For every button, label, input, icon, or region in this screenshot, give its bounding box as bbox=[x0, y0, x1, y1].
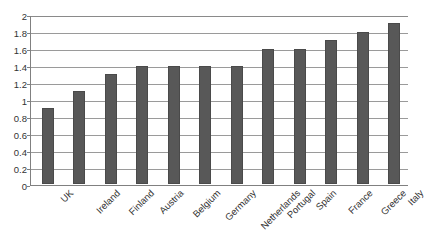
plot-frame bbox=[30, 16, 408, 186]
x-axis-tick-label: France bbox=[347, 188, 375, 216]
y-axis-tick-label: 1.8 bbox=[0, 29, 27, 38]
y-axis-tick-label: 0.4 bbox=[0, 148, 27, 157]
bar bbox=[357, 32, 369, 184]
x-axis-tick-label: Austria bbox=[158, 188, 186, 216]
x-axis-tick-label: Belgium bbox=[191, 188, 222, 219]
y-axis-tick-label: 1.4 bbox=[0, 63, 27, 72]
y-axis-tick-label: 0.2 bbox=[0, 165, 27, 174]
y-axis: 00.20.40.60.811.21.41.61.82 bbox=[0, 16, 30, 186]
y-axis-tick-label: 0.8 bbox=[0, 114, 27, 123]
bar bbox=[168, 66, 180, 184]
plot-area bbox=[30, 16, 408, 186]
x-axis-labels: UKIrelandFinlandAustriaBelgiumGermanyNet… bbox=[30, 188, 408, 246]
x-axis-tick-label: Greece bbox=[379, 188, 408, 217]
bar bbox=[231, 66, 243, 184]
bar bbox=[73, 91, 85, 184]
bar bbox=[262, 49, 274, 184]
bar bbox=[105, 74, 117, 184]
bars-group bbox=[32, 16, 408, 184]
y-axis-tick-label: 2 bbox=[0, 12, 27, 21]
y-axis-tick-label: 0 bbox=[0, 182, 27, 191]
bar bbox=[325, 40, 337, 184]
x-axis-tick-label: Germany bbox=[224, 188, 259, 223]
y-axis-tick-label: 1.6 bbox=[0, 46, 27, 55]
bar bbox=[199, 66, 211, 184]
bar bbox=[42, 108, 54, 184]
x-axis-tick-label: Spain bbox=[314, 188, 338, 212]
x-axis-tick-label: Ireland bbox=[95, 188, 123, 216]
x-axis-tick-label: Italy bbox=[406, 188, 425, 207]
y-axis-tick-label: 0.6 bbox=[0, 131, 27, 140]
bar bbox=[294, 49, 306, 184]
bar bbox=[136, 66, 148, 184]
x-axis-tick-label: Finland bbox=[127, 188, 156, 217]
x-axis-tick-label: UK bbox=[59, 188, 75, 204]
y-axis-tick-label: 1.2 bbox=[0, 80, 27, 89]
bar bbox=[388, 23, 400, 184]
y-axis-tick-label: 1 bbox=[0, 97, 27, 106]
